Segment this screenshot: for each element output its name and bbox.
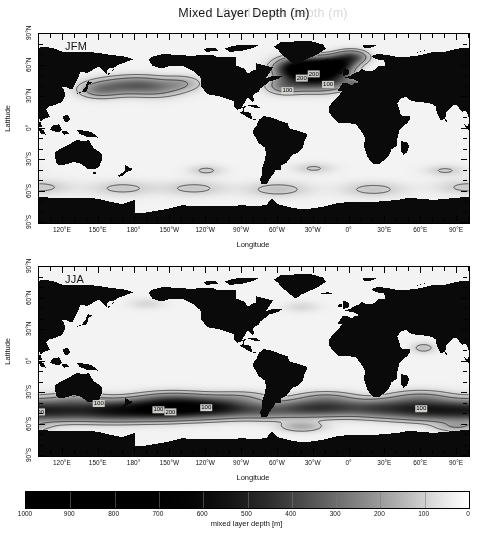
axis-tick (38, 217, 39, 221)
colorbar-title: mixed layer depth [m] (25, 519, 468, 528)
axis-tick (74, 217, 75, 221)
panel-label-jja: JJA (65, 273, 84, 285)
axis-tick (39, 455, 45, 456)
axis-tick (461, 455, 467, 456)
figure-root: Mixed Layer Depth (m) Mixed Layer Depth … (0, 0, 488, 535)
axis-tick (384, 267, 385, 273)
axis-tick (217, 267, 218, 271)
axis-tick (325, 450, 326, 454)
axis-tick (134, 448, 135, 454)
axis-tick (313, 267, 314, 273)
axis-tick (463, 371, 467, 372)
axis-tick (39, 65, 45, 66)
axis-tick (39, 266, 45, 267)
axis-tick (74, 267, 75, 271)
axis-tick (463, 382, 467, 383)
axis-tick (157, 34, 158, 38)
colorbar[interactable] (25, 491, 470, 509)
axis-tick (86, 450, 87, 454)
axis-tick (169, 215, 170, 221)
axis-tick (468, 267, 469, 271)
axis-tick (468, 34, 469, 38)
axis-tick (86, 217, 87, 221)
axis-tick (277, 215, 278, 221)
axis-tick (122, 217, 123, 221)
axis-tick (38, 34, 39, 38)
y-tick-label: 30°N (26, 86, 35, 106)
axis-tick (157, 267, 158, 271)
y-tick-label: 30°S (26, 149, 35, 169)
axis-tick (39, 382, 43, 383)
colorbar-tick-label: 1000 (18, 510, 32, 517)
axis-tick (253, 267, 254, 271)
axis-tick (313, 215, 314, 221)
axis-tick (39, 138, 43, 139)
axis-tick (463, 54, 467, 55)
axis-tick (39, 392, 45, 393)
axis-tick (396, 450, 397, 454)
axis-tick (157, 450, 158, 454)
axis-tick (456, 215, 457, 221)
axis-tick (146, 34, 147, 38)
axis-tick (432, 34, 433, 38)
axis-tick (241, 34, 242, 40)
axis-tick (205, 267, 206, 273)
axis-tick (74, 34, 75, 38)
x-tick-label: 30°E (377, 459, 391, 466)
axis-tick (265, 450, 266, 454)
axis-tick (463, 75, 467, 76)
map-panel-jja[interactable]: JJA (38, 266, 470, 457)
axis-tick (463, 308, 467, 309)
axis-tick (193, 267, 194, 271)
axis-tick (265, 217, 266, 221)
axis-tick (169, 448, 170, 454)
colorbar-tick-label: 100 (418, 510, 429, 517)
axis-tick (337, 450, 338, 454)
axis-tick (301, 217, 302, 221)
axis-tick (408, 217, 409, 221)
colorbar-tick (380, 492, 381, 508)
x-tick-label: 0° (345, 459, 351, 466)
axis-tick (39, 75, 43, 76)
map-canvas-jja (39, 267, 469, 456)
y-tick-label: 90°S (26, 445, 35, 465)
map-panel-jfm[interactable]: JFM (38, 33, 470, 224)
axis-tick (456, 448, 457, 454)
colorbar-tick (425, 492, 426, 508)
axis-tick (289, 217, 290, 221)
axis-tick (420, 448, 421, 454)
axis-tick (39, 86, 43, 87)
axis-tick (463, 319, 467, 320)
axis-tick (39, 54, 43, 55)
axis-tick (39, 33, 45, 34)
axis-tick (241, 267, 242, 273)
axis-tick (420, 34, 421, 40)
axis-tick (62, 215, 63, 221)
axis-tick (134, 34, 135, 40)
axis-tick (217, 217, 218, 221)
axis-tick (420, 215, 421, 221)
axis-tick (432, 267, 433, 271)
axis-tick (349, 34, 350, 40)
axis-tick (463, 107, 467, 108)
colorbar-tick-label: 800 (108, 510, 119, 517)
axis-tick (62, 267, 63, 273)
axis-tick (265, 34, 266, 38)
axis-tick (432, 217, 433, 221)
axis-tick (62, 34, 63, 40)
axis-tick (444, 217, 445, 221)
y-tick-label: 60°N (26, 288, 35, 308)
axis-tick (98, 215, 99, 221)
axis-tick (39, 212, 43, 213)
axis-tick (74, 450, 75, 454)
axis-tick (181, 450, 182, 454)
colorbar-tick-label: 900 (64, 510, 75, 517)
x-tick-label: 90°E (449, 226, 463, 233)
axis-tick (110, 217, 111, 221)
axis-tick (461, 266, 467, 267)
axis-tick (98, 448, 99, 454)
x-tick-label: 0° (345, 226, 351, 233)
axis-tick (241, 448, 242, 454)
axis-tick (39, 128, 45, 129)
colorbar-tick (70, 492, 71, 508)
